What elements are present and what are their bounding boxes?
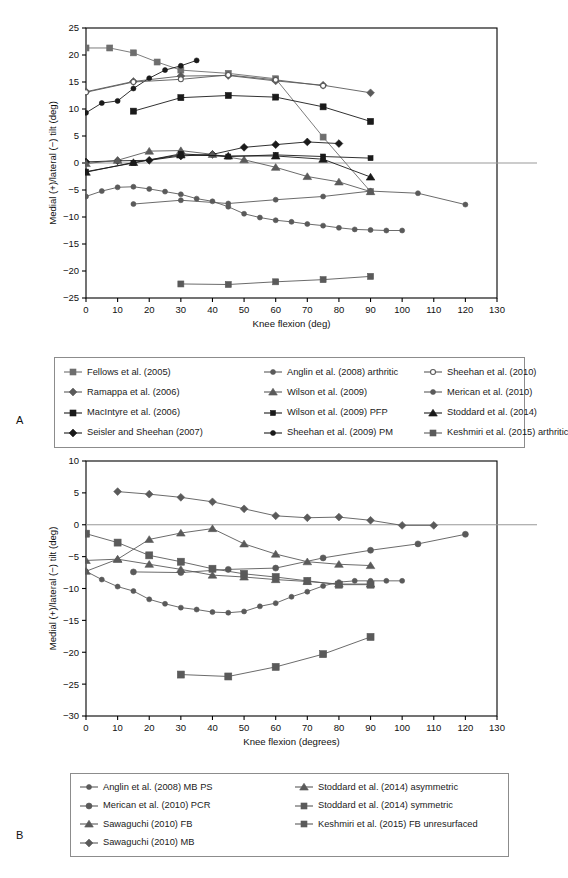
legend-marker-icon (263, 408, 283, 418)
data-point-circle-open (226, 72, 231, 77)
x-tick-label: 70 (302, 722, 313, 733)
data-point-square (367, 581, 374, 588)
data-point-square (241, 570, 248, 577)
legend-marker-icon (423, 387, 443, 397)
data-point-circle (321, 223, 326, 228)
data-point-square (367, 633, 374, 640)
legend-item[interactable]: Stoddard et al. (2014) symmetric (294, 800, 502, 811)
data-point-circle (400, 228, 405, 233)
legend-key-circle (423, 387, 443, 397)
legend-key-diamond (79, 838, 99, 848)
data-point-circle (115, 584, 120, 589)
legend-item[interactable]: Sheehan et al. (2010) (423, 367, 568, 378)
legend-key-triangle (263, 387, 283, 397)
legend-label: Seisler and Sheehan (2007) (87, 427, 203, 438)
legend-key-circle (263, 428, 283, 438)
legend-key-triangle (423, 408, 443, 418)
legend-key-circle (79, 801, 99, 811)
legend-item[interactable]: Wilson et al. (2009) (263, 387, 423, 398)
legend-label: Sawaguchi (2010) FB (103, 819, 192, 830)
legend-label: Sawaguchi (2010) MB (103, 837, 194, 848)
data-point-square (146, 552, 153, 559)
legend-key-square (294, 801, 314, 811)
data-point-circle (257, 215, 262, 220)
data-point-circle (84, 110, 89, 115)
legend-item[interactable]: Sawaguchi (2010) FB (79, 819, 294, 830)
data-point-circle (273, 601, 278, 606)
panel-letter-b: B (16, 829, 23, 841)
x-tick-label: 100 (394, 304, 410, 315)
data-point-circle (178, 63, 183, 68)
legend-label: Keshmiri et al. (2015) FB unresurfaced (318, 819, 478, 830)
legend-item[interactable]: Sawaguchi (2010) MB (79, 837, 294, 848)
legend-key-triangle (294, 782, 314, 792)
data-point-square (178, 95, 184, 101)
y-tick-label: −25 (63, 292, 79, 303)
data-point-circle (271, 370, 276, 375)
legend-marker-icon (263, 428, 283, 438)
data-point-circle (273, 197, 278, 202)
legend-item[interactable]: Merican et al. (2010) PCR (79, 800, 294, 811)
legend-item[interactable]: Anglin et al. (2008) arthritic (263, 367, 423, 378)
y-tick-label: −15 (63, 238, 79, 249)
legend-item[interactable]: Fellows et al. (2005) (63, 367, 263, 378)
data-point-circle (210, 610, 215, 615)
x-tick-label: 50 (239, 722, 250, 733)
data-point-square (272, 574, 279, 581)
x-tick-label: 80 (334, 304, 345, 315)
data-point-circle (194, 607, 199, 612)
data-point-square (225, 93, 231, 99)
data-point-square (368, 156, 373, 161)
data-point-circle (99, 577, 104, 582)
data-point-circle (305, 222, 310, 227)
legend-item[interactable]: Keshmiri et al. (2015) arthritic (423, 427, 568, 438)
legend-marker-icon (63, 408, 83, 418)
legend-item[interactable]: Wilson et al. (2009) PFP (263, 407, 423, 418)
data-point-circle (131, 589, 136, 594)
data-point-circle (273, 218, 278, 223)
legend-item[interactable]: Keshmiri et al. (2015) FB unresurfaced (294, 819, 502, 830)
x-tick-label: 0 (83, 722, 88, 733)
plot-area-a: −25−20−15−10−505101520250102030405060708… (0, 0, 545, 350)
data-point-circle (147, 76, 152, 81)
legend-key-triangle (79, 819, 99, 829)
legend-key-square (63, 408, 83, 418)
data-point-circle (257, 604, 262, 609)
data-point-square (107, 45, 113, 51)
data-point-circle (368, 547, 374, 553)
legend-item[interactable]: Seisler and Sheehan (2007) (63, 427, 263, 438)
data-point-circle (242, 609, 247, 614)
y-tick-label: 20 (68, 49, 79, 60)
x-tick-label: 80 (334, 722, 345, 733)
data-point-square (154, 59, 160, 65)
legend-key-square (63, 367, 83, 377)
data-point-circle (147, 597, 152, 602)
legend-item[interactable]: Sheehan et al. (2009) PM (263, 427, 423, 438)
legend-item[interactable]: Stoddard et al. (2014) asymmetric (294, 782, 502, 793)
data-point-circle (271, 430, 276, 435)
legend-a: Fellows et al. (2005)Anglin et al. (2008… (54, 357, 525, 448)
data-point-circle (415, 191, 420, 196)
x-tick-label: 10 (112, 304, 123, 315)
data-point-circle (87, 785, 92, 790)
legend-item[interactable]: Anglin et al. (2008) MB PS (79, 782, 294, 793)
data-point-circle-open (431, 370, 436, 375)
legend-item[interactable]: Stoddard et al. (2014) (423, 407, 568, 418)
legend-label: Sheehan et al. (2010) (447, 367, 536, 378)
legend-item[interactable]: MacIntyre et al. (2006) (63, 407, 263, 418)
legend-label: Sheehan et al. (2009) PM (287, 427, 393, 438)
legend-item[interactable]: Merican et al. (2010) (423, 387, 568, 398)
data-point-circle (289, 219, 294, 224)
legend-item[interactable]: Ramappa et al. (2006) (63, 387, 263, 398)
data-point-square (273, 94, 279, 100)
data-point-circle-open (178, 77, 183, 82)
y-tick-label: 15 (68, 76, 79, 87)
data-point-square (301, 803, 307, 809)
legend-label: Anglin et al. (2008) arthritic (287, 367, 398, 378)
legend-marker-icon (263, 367, 283, 377)
y-tick-label: −15 (63, 615, 79, 626)
plot-frame (86, 461, 497, 716)
plot-area-b: −30−25−20−15−10−505100102030405060708090… (0, 443, 545, 768)
data-point-circle (352, 578, 357, 583)
y-tick-label: −5 (68, 551, 79, 562)
